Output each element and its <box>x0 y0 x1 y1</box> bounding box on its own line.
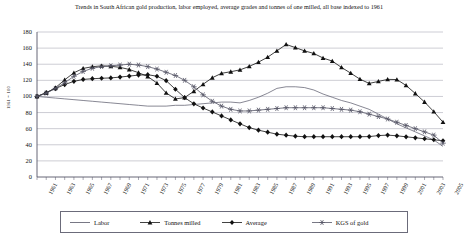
data-point-marker <box>320 105 326 110</box>
data-point-marker <box>321 56 326 60</box>
data-point-marker <box>274 106 280 111</box>
data-point-marker <box>293 105 299 110</box>
legend-item-tonnes-milled[interactable]: Tonnes milled <box>139 218 200 227</box>
data-point-marker <box>145 64 151 69</box>
data-point-marker <box>348 108 354 113</box>
data-point-marker <box>256 128 261 133</box>
legend-marker-diamond-icon <box>221 218 243 227</box>
y-tick-label: 100 <box>8 92 32 99</box>
data-point-marker <box>238 121 243 126</box>
chart-legend: LaborTonnes milledAverageKGS of gold <box>60 211 408 233</box>
series-line <box>37 64 443 143</box>
data-point-marker <box>358 77 363 81</box>
data-point-marker <box>283 105 289 110</box>
legend-marker-star-icon <box>311 218 333 227</box>
data-point-marker <box>404 134 409 139</box>
data-point-marker <box>422 129 428 134</box>
data-point-marker <box>247 64 252 68</box>
data-point-marker <box>72 79 77 84</box>
data-point-marker <box>275 132 280 137</box>
data-point-marker <box>348 71 353 75</box>
data-point-marker <box>265 55 270 59</box>
data-point-marker <box>228 107 234 112</box>
data-point-marker <box>385 133 390 138</box>
legend-item-kgs-of-gold[interactable]: KGS of gold <box>311 218 369 227</box>
data-point-marker <box>210 109 215 114</box>
data-point-marker <box>127 73 132 78</box>
legend-label: Average <box>246 219 267 226</box>
data-point-marker <box>413 135 418 140</box>
y-tick-label: 40 <box>8 141 32 148</box>
data-point-marker <box>321 134 326 139</box>
legend-label: Tonnes milled <box>164 219 200 226</box>
data-point-marker <box>339 134 344 139</box>
data-point-marker <box>385 117 391 122</box>
legend-label: Labor <box>94 219 109 226</box>
series-average <box>35 72 446 143</box>
data-point-marker <box>265 130 270 135</box>
data-point-marker <box>358 134 363 139</box>
y-tick-label: 120 <box>8 76 32 83</box>
data-point-marker <box>265 107 271 112</box>
legend-marker-none-icon <box>69 218 91 227</box>
legend-label: KGS of gold <box>336 219 369 226</box>
data-point-marker <box>293 134 298 139</box>
data-point-marker <box>201 82 206 86</box>
data-point-marker <box>330 134 335 139</box>
data-point-marker <box>357 109 363 114</box>
data-point-marker <box>413 126 419 131</box>
y-tick-label: 180 <box>8 28 32 35</box>
series-line <box>37 87 443 147</box>
series-kgs-of-gold <box>34 62 446 146</box>
legend-item-average[interactable]: Average <box>221 218 267 227</box>
y-tick-label: 160 <box>8 44 32 51</box>
data-point-marker <box>219 104 225 109</box>
data-point-marker <box>210 75 215 79</box>
data-point-marker <box>404 83 409 87</box>
data-point-marker <box>339 107 345 112</box>
data-point-marker <box>155 74 160 79</box>
data-point-marker <box>247 125 252 130</box>
data-point-marker <box>312 134 317 139</box>
data-point-marker <box>348 134 353 139</box>
data-point-marker <box>99 76 104 81</box>
data-point-marker <box>136 63 142 68</box>
series-tonnes-milled <box>35 42 446 124</box>
data-point-marker <box>302 105 308 110</box>
y-tick-label: 60 <box>8 125 32 132</box>
data-point-marker <box>201 105 206 110</box>
chart-title: Trends in South African gold production,… <box>40 3 418 12</box>
series-line <box>37 75 443 141</box>
data-point-marker <box>431 137 436 142</box>
data-point-marker <box>192 101 197 106</box>
data-point-marker <box>118 74 123 79</box>
data-point-marker <box>154 67 160 72</box>
data-point-marker <box>284 42 289 46</box>
data-point-marker <box>145 72 150 77</box>
data-point-marker <box>329 106 335 111</box>
data-point-marker <box>311 105 317 110</box>
data-point-marker <box>256 60 261 64</box>
y-tick-label: 80 <box>8 109 32 116</box>
legend-item-labor[interactable]: Labor <box>69 218 109 227</box>
data-point-marker <box>319 220 325 225</box>
data-point-marker <box>367 134 372 139</box>
data-point-marker <box>228 117 233 122</box>
y-tick-label: 0 <box>8 173 32 180</box>
data-point-marker <box>219 113 224 118</box>
legend-marker-triangle-icon <box>139 218 161 227</box>
data-point-marker <box>275 48 280 52</box>
data-point-marker <box>163 70 169 75</box>
data-point-marker <box>284 133 289 138</box>
data-point-marker <box>395 133 400 138</box>
y-tick-label: 20 <box>8 157 32 164</box>
data-point-marker <box>376 133 381 138</box>
data-point-marker <box>126 62 132 67</box>
data-point-marker <box>81 77 86 82</box>
data-point-marker <box>173 73 179 78</box>
data-point-marker <box>155 81 160 85</box>
data-point-marker <box>109 75 114 80</box>
data-point-marker <box>339 65 344 69</box>
